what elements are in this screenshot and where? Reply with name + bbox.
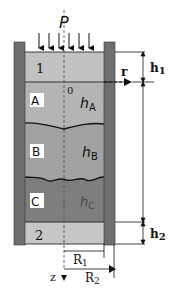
right-wall	[104, 42, 115, 245]
layer-b-label: B	[32, 145, 40, 159]
compression-cell-diagram: P 1 2 0 A B C hA hB hC h1 h2 r	[0, 0, 173, 300]
force-label: P	[59, 13, 69, 32]
piston-1-label: 1	[36, 61, 44, 76]
r-axis-label: r	[121, 65, 128, 79]
h1-label: h1	[150, 61, 166, 76]
layer-c-label: C	[31, 195, 39, 209]
h2-label: h2	[150, 227, 166, 242]
origin-label: 0	[67, 85, 73, 96]
left-wall	[14, 42, 25, 245]
r2-arrow-icon	[109, 265, 116, 273]
r-arrow-icon	[124, 78, 132, 86]
r1-label: R1	[73, 253, 88, 268]
h1-dimension	[141, 52, 145, 244]
piston-2-label: 2	[35, 228, 43, 243]
r2-label: R2	[85, 271, 100, 286]
z-axis-label: z	[50, 271, 56, 284]
layer-a-label: A	[31, 94, 40, 108]
z-arrow-icon	[61, 275, 67, 281]
